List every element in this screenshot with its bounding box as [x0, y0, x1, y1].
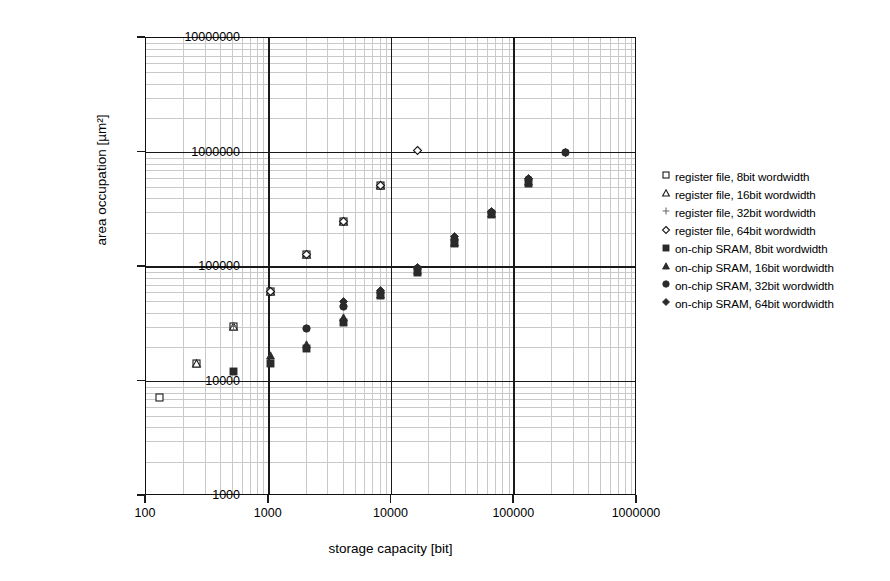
legend-item: register file, 8bit wordwidth: [660, 167, 886, 185]
x-tick-label: 1000: [208, 507, 328, 519]
data-point: [302, 250, 311, 259]
x-tick-mark: [635, 495, 637, 503]
x-tick-mark: [267, 495, 269, 503]
x-tick-label: 1000000: [576, 507, 696, 519]
x-axis-title: storage capacity [bit]: [145, 541, 636, 556]
filled-diamond-icon: [660, 297, 675, 309]
data-point: [229, 322, 238, 331]
data-point: [413, 146, 422, 155]
x-tick-mark: [144, 495, 146, 503]
data-point: [376, 181, 385, 190]
filled-triangle-icon: [660, 261, 675, 273]
legend-item: register file, 32bit wordwidth: [660, 203, 886, 221]
legend-item-label: register file, 32bit wordwidth: [675, 206, 816, 219]
legend-item-label: on-chip SRAM, 8bit wordwidth: [675, 242, 828, 255]
x-tick-label: 100000: [453, 507, 573, 519]
filled-square-icon: [660, 243, 675, 255]
open-diamond-icon: [660, 225, 675, 237]
y-tick-mark: [137, 36, 145, 38]
x-tick-label: 100: [85, 507, 205, 519]
legend-item: on-chip SRAM, 16bit wordwidth: [660, 258, 886, 276]
legend-item-label: register file, 8bit wordwidth: [675, 170, 809, 183]
data-point: [339, 313, 348, 322]
data-point: [266, 287, 275, 296]
x-tick-label: 10000: [331, 507, 451, 519]
chart-page: 100010000100000100000010000000 100100010…: [0, 0, 890, 581]
legend-item: on-chip SRAM, 32bit wordwidth: [660, 276, 886, 294]
y-tick-mark: [137, 151, 145, 153]
y-axis-title: area occupation [µm²]: [94, 70, 109, 290]
open-square-icon: [660, 170, 675, 182]
data-point: [339, 297, 348, 306]
data-point: [413, 263, 422, 272]
legend-item-label: register file, 64bit wordwidth: [675, 224, 816, 237]
y-tick-mark: [137, 380, 145, 382]
legend-item: register file, 16bit wordwidth: [660, 185, 886, 203]
data-point: [450, 232, 459, 241]
data-point: [192, 359, 201, 368]
x-tick-mark: [390, 495, 392, 503]
chart-legend: register file, 8bit wordwidthregister fi…: [660, 167, 886, 313]
data-point: [302, 324, 311, 333]
legend-item-label: on-chip SRAM, 16bit wordwidth: [675, 261, 834, 274]
legend-item: on-chip SRAM, 8bit wordwidth: [660, 240, 886, 258]
legend-item: register file, 64bit wordwidth: [660, 222, 886, 240]
data-point: [561, 148, 570, 157]
filled-circle-icon: [660, 279, 675, 291]
legend-item: on-chip SRAM, 64bit wordwidth: [660, 294, 886, 312]
data-point: [302, 340, 311, 349]
data-point: [376, 286, 385, 295]
legend-item-label: register file, 16bit wordwidth: [675, 188, 816, 201]
data-point: [266, 359, 275, 368]
y-tick-mark: [137, 265, 145, 267]
data-point: [339, 217, 348, 226]
data-point: [155, 393, 164, 402]
legend-item-label: on-chip SRAM, 32bit wordwidth: [675, 279, 834, 292]
data-point: [524, 174, 533, 183]
x-tick-mark: [512, 495, 514, 503]
y-axis-title-wrap: area occupation [µm²]: [94, 70, 114, 290]
plus-icon: [660, 206, 675, 218]
data-point: [266, 351, 275, 360]
legend-item-label: on-chip SRAM, 64bit wordwidth: [675, 297, 834, 310]
open-triangle-icon: [660, 188, 675, 200]
data-point: [487, 207, 496, 216]
